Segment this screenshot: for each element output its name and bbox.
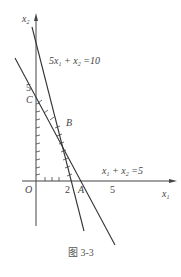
x-axis-arrow-icon bbox=[169, 179, 177, 183]
hatch-x-axis bbox=[45, 177, 59, 181]
y-axis-arrow-icon bbox=[34, 13, 38, 21]
y-tick-5: 5 bbox=[26, 83, 31, 93]
diagram-canvas bbox=[0, 0, 181, 277]
line1-equation-label: 5x1 + x2 =10 bbox=[49, 56, 100, 69]
x-tick-2: 2 bbox=[65, 185, 70, 195]
y-axis-label: x2 bbox=[22, 14, 29, 27]
origin-label: O bbox=[25, 185, 32, 195]
x-axis-label: x1 bbox=[162, 189, 169, 202]
point-a-label: A bbox=[78, 185, 84, 195]
figure-caption: 图 3-3 bbox=[68, 244, 94, 259]
line2-equation-label: x1 + x2 =5 bbox=[102, 166, 143, 179]
point-b-label: B bbox=[66, 118, 72, 128]
point-c-label: C bbox=[26, 95, 33, 105]
hatch-y-axis bbox=[36, 103, 40, 175]
x-tick-5: 5 bbox=[110, 185, 115, 195]
hatch-ba bbox=[55, 126, 72, 176]
